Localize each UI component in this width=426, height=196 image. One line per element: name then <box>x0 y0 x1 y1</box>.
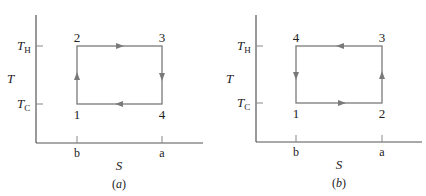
caption-b: (b) <box>332 176 346 190</box>
point-label: 4 <box>293 30 300 45</box>
arrow-up-icon <box>74 72 80 80</box>
label-th: TH <box>237 38 251 55</box>
point-label: 3 <box>159 30 166 45</box>
y-axis-label: T <box>226 71 234 86</box>
arrow-right-icon <box>338 100 346 106</box>
arrow-up-icon <box>379 71 385 79</box>
arrow-left-icon <box>336 43 344 49</box>
point-label: 1 <box>293 106 300 121</box>
label-th: TH <box>17 38 31 55</box>
diagram-b: TH TC T b a S (b) 4 3 1 2 <box>226 15 422 190</box>
xtick-label-a: a <box>379 145 385 159</box>
cycle-rect <box>77 46 162 104</box>
y-axis-label: T <box>7 71 15 86</box>
xtick-label-b: b <box>74 146 80 160</box>
ts-diagrams: TH TC T b a S (a) 2 3 1 4 TH TC T b a S … <box>0 0 426 196</box>
x-axis-label: S <box>116 158 123 173</box>
xtick-label-a: a <box>159 146 165 160</box>
caption-a: (a) <box>112 177 126 191</box>
label-tc: TC <box>237 95 250 112</box>
point-label: 3 <box>379 30 386 45</box>
point-label: 1 <box>74 107 81 122</box>
xtick-label-b: b <box>293 145 299 159</box>
arrow-left-icon <box>115 101 123 107</box>
arrow-right-icon <box>116 43 124 49</box>
arrow-down-icon <box>293 72 299 80</box>
label-tc: TC <box>17 96 30 113</box>
cycle-rect <box>296 46 382 103</box>
arrow-down-icon <box>159 73 165 81</box>
point-label: 4 <box>159 107 166 122</box>
x-axis-label: S <box>336 157 343 172</box>
point-label: 2 <box>379 106 386 121</box>
diagram-a: TH TC T b a S (a) 2 3 1 4 <box>7 15 203 191</box>
point-label: 2 <box>74 30 81 45</box>
